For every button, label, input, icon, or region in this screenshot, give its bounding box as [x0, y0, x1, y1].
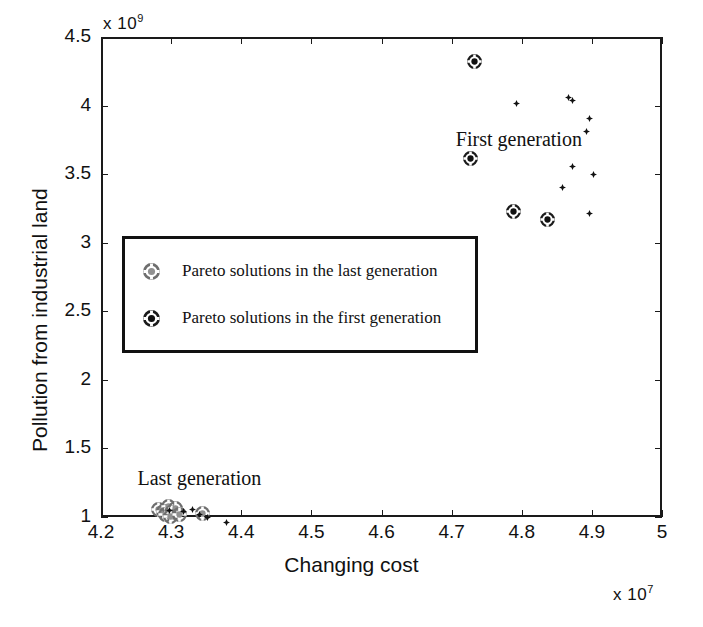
y-axis-tick — [655, 311, 662, 312]
x-axis-tick — [382, 510, 383, 517]
y-axis-tick — [101, 517, 108, 518]
data-point-diamond — [565, 87, 572, 94]
plot-annotation: Last generation — [137, 467, 261, 490]
x-axis-tick-label: 4.5 — [281, 521, 341, 543]
data-point-diamond — [180, 501, 187, 508]
data-point-diamond — [513, 93, 520, 100]
x-axis-tick — [311, 510, 312, 517]
x-axis-tick — [101, 37, 102, 44]
data-point-diamond — [223, 512, 230, 519]
data-point-diamond — [189, 499, 196, 506]
y-axis-tick — [101, 37, 108, 38]
x-axis-tick — [382, 37, 383, 44]
y-axis-tick-label: 2 — [31, 368, 91, 390]
y-axis-tick-label: 2.5 — [31, 299, 91, 321]
legend-label: Pareto solutions in the last generation — [182, 261, 437, 281]
y-axis-tick-label: 3.5 — [31, 162, 91, 184]
legend-entry-last-generation: Pareto solutions in the last generation — [143, 254, 437, 288]
data-point-diamond — [559, 177, 566, 184]
x-axis-tick — [101, 510, 102, 517]
plot-annotation: First generation — [456, 128, 582, 151]
y-axis-tick — [101, 106, 108, 107]
x-axis-tick-label: 4.8 — [492, 521, 552, 543]
data-point-diamond — [590, 164, 597, 171]
y-axis-tick-label: 1.5 — [31, 436, 91, 458]
data-point-pareto — [463, 151, 478, 166]
x-axis-tick — [452, 37, 453, 44]
x-axis-tick — [311, 37, 312, 44]
x-axis-tick — [592, 510, 593, 517]
x-axis-tick — [592, 37, 593, 44]
x-axis-tick-label: 4.4 — [211, 521, 271, 543]
x-axis-exponent: x 107 — [613, 583, 654, 605]
data-point-diamond — [204, 507, 211, 514]
pareto-last-generation-marker-icon — [143, 263, 160, 280]
y-axis-tick — [101, 311, 108, 312]
x-axis-tick — [241, 510, 242, 517]
data-point-diamond — [586, 108, 593, 115]
y-axis-tick-label: 1 — [31, 505, 91, 527]
y-axis-tick — [655, 174, 662, 175]
x-axis-tick — [171, 37, 172, 44]
data-point-pareto — [506, 204, 521, 219]
data-point-diamond — [166, 500, 173, 507]
y-axis-tick — [655, 106, 662, 107]
x-axis-tick — [241, 37, 242, 44]
y-axis-tick — [655, 448, 662, 449]
data-point-diamond — [586, 203, 593, 210]
y-axis-tick — [655, 243, 662, 244]
y-axis-tick — [101, 380, 108, 381]
x-axis-tick-label: 4.3 — [141, 521, 201, 543]
pareto-first-generation-marker-icon — [143, 310, 160, 327]
x-axis-tick-label: 4.7 — [422, 521, 482, 543]
y-axis-tick — [655, 37, 662, 38]
legend-box: Pareto solutions in the last generation … — [122, 236, 478, 353]
y-axis-tick — [101, 243, 108, 244]
x-axis-tick-label: 4.9 — [562, 521, 622, 543]
x-axis-tick — [452, 510, 453, 517]
x-axis-tick — [662, 37, 663, 44]
y-axis-tick-label: 4.5 — [31, 25, 91, 47]
x-axis-tick — [662, 510, 663, 517]
data-point-pareto — [467, 54, 482, 69]
x-axis-tick — [522, 37, 523, 44]
x-axis-title: Changing cost — [0, 553, 703, 577]
legend-entry-first-generation: Pareto solutions in the first generation — [143, 301, 441, 335]
scatter-plot-figure: x 109 x 107 Changing cost Pollution from… — [0, 0, 703, 627]
data-point-pareto — [540, 212, 555, 227]
legend-label: Pareto solutions in the first generation — [182, 308, 441, 328]
y-axis-tick — [655, 517, 662, 518]
y-axis-tick — [101, 448, 108, 449]
y-axis-tick — [101, 174, 108, 175]
x-axis-tick-label: 5 — [632, 521, 692, 543]
y-axis-tick-label: 4 — [31, 94, 91, 116]
data-point-diamond — [196, 504, 203, 511]
data-point-diamond — [583, 121, 590, 128]
data-point-diamond — [569, 156, 576, 163]
y-axis-tick-label: 3 — [31, 231, 91, 253]
y-axis-exponent: x 109 — [103, 12, 144, 34]
x-axis-tick — [522, 510, 523, 517]
x-axis-tick-label: 4.6 — [352, 521, 412, 543]
y-axis-tick — [655, 380, 662, 381]
